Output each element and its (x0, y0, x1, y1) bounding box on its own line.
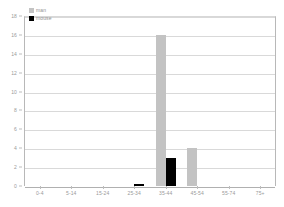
legend-swatch-icon (29, 8, 34, 13)
x-axis-tick-label: 0-4 (24, 191, 56, 196)
y-axis-tick-label: 14 (11, 51, 17, 56)
x-axis-tick-mark (229, 186, 230, 189)
y-axis-tick-label: 2 (14, 165, 17, 170)
x-axis-category: 55-74 (213, 186, 245, 207)
x-axis-tick-label: 25-34 (119, 191, 151, 196)
bar-group (93, 16, 113, 186)
y-axis-tick-label: 0 (14, 184, 17, 189)
bar-chart: 024681012141618 0-45-1415-2425-3435-4445… (0, 0, 284, 207)
y-axis-tick-label: 8 (14, 108, 17, 113)
x-axis-tick-label: 35-44 (150, 191, 182, 196)
x-axis-category: 35-44 (150, 186, 182, 207)
y-axis-tick-label: 16 (11, 32, 17, 37)
bar-group (156, 16, 176, 186)
x-axis-category: 5-14 (56, 186, 88, 207)
y-axis-tick-mark (19, 91, 22, 92)
chart-legend: manmouse (29, 7, 52, 22)
bar-group (187, 16, 207, 186)
y-axis-tick-label: 6 (14, 127, 17, 132)
x-axis-tick-mark (134, 186, 135, 189)
y-axis-tick-mark (19, 16, 22, 17)
bar-group (250, 16, 270, 186)
legend-item: mouse (29, 15, 52, 22)
y-axis-tick-mark (19, 167, 22, 168)
bar-man (187, 148, 197, 186)
x-axis-category: 75+ (245, 186, 277, 207)
x-axis-tick-mark (103, 186, 104, 189)
bar-man (156, 35, 166, 186)
y-axis-tick-mark (19, 148, 22, 149)
y-axis-tick-label: 12 (11, 70, 17, 75)
x-axis: 0-45-1415-2425-3435-4445-5455-7475+ (24, 186, 276, 207)
x-axis-tick-label: 5-14 (56, 191, 88, 196)
y-axis-tick-mark (19, 186, 22, 187)
x-axis-tick-label: 75+ (245, 191, 277, 196)
y-axis-tick-mark (19, 53, 22, 54)
x-axis-category: 0-4 (24, 186, 56, 207)
y-axis-tick-mark (19, 34, 22, 35)
x-axis-tick-label: 15-24 (87, 191, 119, 196)
y-axis-tick-label: 4 (14, 146, 17, 151)
bar-group (124, 16, 144, 186)
y-axis-tick-mark (19, 72, 22, 73)
y-axis: 024681012141618 (0, 16, 22, 186)
legend-label: mouse (36, 16, 52, 21)
bar-group (61, 16, 81, 186)
x-axis-tick-label: 45-54 (182, 191, 214, 196)
bars-layer (24, 16, 276, 186)
y-axis-tick-label: 18 (11, 14, 17, 19)
x-axis-tick-mark (40, 186, 41, 189)
legend-item: man (29, 7, 52, 14)
y-axis-tick-label: 10 (11, 89, 17, 94)
legend-label: man (36, 8, 46, 13)
y-axis-tick-mark (19, 129, 22, 130)
x-axis-category: 25-34 (119, 186, 151, 207)
legend-swatch-icon (29, 16, 34, 21)
x-axis-tick-mark (260, 186, 261, 189)
x-axis-tick-mark (166, 186, 167, 189)
y-axis-tick-mark (19, 110, 22, 111)
bar-mouse (166, 158, 176, 186)
x-axis-tick-mark (71, 186, 72, 189)
x-axis-category: 45-54 (182, 186, 214, 207)
x-axis-category: 15-24 (87, 186, 119, 207)
x-axis-tick-mark (197, 186, 198, 189)
bar-group (30, 16, 50, 186)
bar-group (219, 16, 239, 186)
x-axis-tick-label: 55-74 (213, 191, 245, 196)
